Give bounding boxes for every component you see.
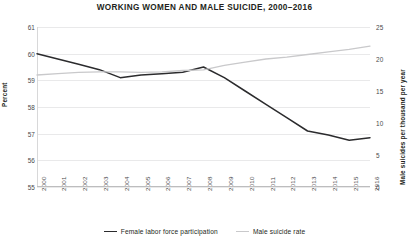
gridline <box>37 187 370 188</box>
y-tick-left-label: 61 <box>13 24 35 31</box>
legend-item[interactable]: Male suicide rate <box>236 228 305 235</box>
y-axis-right-title: Male suicides per thousand per year <box>399 69 406 185</box>
legend-item[interactable]: Female labor force participation <box>104 228 218 235</box>
y-tick-left-label: 55 <box>13 184 35 191</box>
y-tick-right-label: 5 <box>376 152 398 159</box>
y-tick-left-label: 58 <box>13 104 35 111</box>
chart-title: WORKING WOMEN AND MALE SUICIDE, 2000–201… <box>0 3 409 12</box>
y-tick-right-label: 20 <box>376 56 398 63</box>
y-tick-left-label: 59 <box>13 77 35 84</box>
y-tick-left-label: 56 <box>13 157 35 164</box>
plot-area <box>37 27 370 187</box>
legend-label: Female labor force participation <box>121 228 218 235</box>
x-tick-label: 2016 <box>373 176 380 191</box>
y-tick-left-label: 57 <box>13 130 35 137</box>
chart-legend: Female labor force participationMale sui… <box>0 228 409 235</box>
series-lines <box>37 27 370 187</box>
legend-label: Male suicide rate <box>253 228 305 235</box>
series-line <box>37 46 370 75</box>
y-tick-right-label: 15 <box>376 88 398 95</box>
y-tick-right-label: 25 <box>376 24 398 31</box>
legend-swatch-icon <box>236 231 249 233</box>
y-axis-left-title: Percent <box>1 83 8 108</box>
legend-swatch-icon <box>104 231 117 233</box>
chart-container: WORKING WOMEN AND MALE SUICIDE, 2000–201… <box>0 0 409 247</box>
y-tick-right-label: 10 <box>376 120 398 127</box>
series-line <box>37 54 370 141</box>
y-tick-left-label: 60 <box>13 50 35 57</box>
